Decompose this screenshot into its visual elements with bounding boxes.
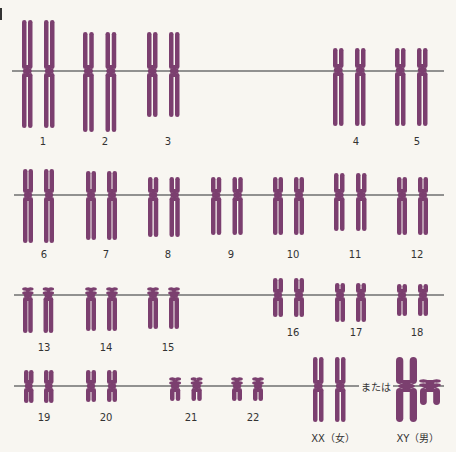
chromosome-label: 4: [353, 136, 359, 147]
chromosome-label: 12: [411, 249, 424, 260]
chromosome-pair-6: [23, 169, 54, 243]
chromosome-pair-5: [395, 48, 428, 126]
chromosome-pair-11: [334, 173, 367, 231]
chromosome-pair-10: [273, 177, 304, 235]
chromosome-pair-12: [397, 177, 428, 235]
chromosome-label: 7: [103, 249, 109, 260]
chromosome-pair-21: [169, 377, 202, 401]
chromosome-pair-14: [85, 287, 118, 331]
chromosome-label: 3: [165, 136, 171, 147]
chromosome-label: 17: [350, 327, 363, 338]
chromosome-label: 16: [287, 327, 300, 338]
chromosome-pair-8: [148, 177, 180, 237]
chromosome-label: 10: [287, 249, 300, 260]
chromosome-label: 14: [100, 342, 113, 353]
chromosome-pair-4: [333, 48, 366, 126]
chromosome-label: 8: [165, 249, 171, 260]
chromosome-pair-16: [273, 278, 304, 317]
chromosome-pair-9: [211, 177, 243, 235]
chromosome-label: 21: [185, 412, 198, 423]
karyotype-diagram: 12345678910111213141516171819202122XX（女）…: [0, 0, 456, 452]
or-text: または: [359, 379, 393, 394]
chromosome-label: XX（女）: [311, 430, 355, 445]
chromosome-pair-7: [86, 171, 117, 240]
chromosome-label: 2: [102, 136, 108, 147]
chromosome-pair-17: [335, 283, 366, 322]
chromosome-pair-13: [22, 287, 54, 333]
chromosome-label: 19: [38, 412, 51, 423]
chromosome-pair-22: [231, 377, 264, 401]
chromosome-pair-15: [147, 287, 180, 329]
chromosome-pair-3: [147, 32, 180, 117]
chromosome-label: 9: [228, 249, 234, 260]
chromosome-label: 22: [247, 412, 260, 423]
chromosome-label: 1: [40, 136, 46, 147]
chromosome-label: 15: [162, 342, 175, 353]
chromosome-pair-y: [419, 379, 441, 405]
chromosome-label: 5: [414, 136, 420, 147]
chromosome-label: 6: [41, 249, 47, 260]
chromosome-label: 20: [100, 412, 113, 423]
chromosome-pair-2: [83, 32, 116, 132]
chromosome-pair-1: [22, 20, 55, 128]
chromosome-label: 13: [38, 342, 51, 353]
chromosome-label: 18: [411, 327, 424, 338]
chromosome-label: 11: [349, 249, 362, 260]
chromosome-pair-xx: [313, 357, 346, 422]
chromosome-pair-x: [396, 357, 417, 422]
xy-male-label: XY（男）: [397, 430, 440, 445]
chromosome-pair-18: [397, 284, 428, 316]
